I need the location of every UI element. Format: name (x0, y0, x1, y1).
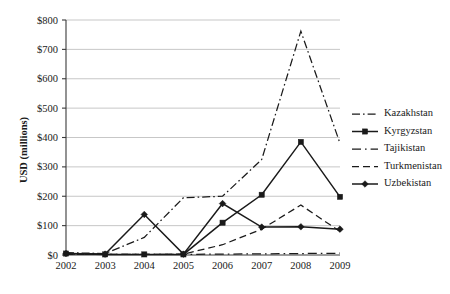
x-tick-label: 2005 (173, 260, 194, 271)
y-axis-tick-labels: $0$100$200$300$400$500$600$700$800 (37, 15, 58, 261)
chart-container: $0$100$200$300$400$500$600$700$800 20022… (0, 0, 450, 294)
legend-label: Kazakhstan (384, 107, 434, 118)
y-tick-label: $300 (37, 161, 58, 172)
x-tick-label: 2008 (290, 260, 311, 271)
legend-marker (362, 129, 367, 134)
data-point-marker (259, 192, 264, 197)
chart-background (0, 0, 450, 294)
legend-label: Tajikistan (384, 142, 426, 153)
x-tick-label: 2004 (134, 260, 156, 271)
y-tick-label: $400 (37, 132, 58, 143)
y-tick-label: $200 (37, 191, 58, 202)
x-tick-label: 2002 (56, 260, 77, 271)
x-tick-label: 2006 (212, 260, 233, 271)
y-tick-label: $600 (37, 73, 58, 84)
legend-label: Kyrgyzstan (384, 125, 433, 136)
y-tick-label: $500 (37, 103, 58, 114)
y-tick-label: $800 (37, 15, 58, 26)
y-tick-label: $0 (48, 250, 59, 261)
data-point-marker (298, 139, 303, 144)
x-tick-label: 2009 (330, 260, 351, 271)
data-point-marker (337, 194, 342, 199)
y-tick-label: $700 (37, 44, 58, 55)
x-tick-label: 2007 (251, 260, 272, 271)
data-point-marker (220, 220, 225, 225)
legend-label: Uzbekistan (384, 177, 432, 188)
x-tick-label: 2003 (95, 260, 116, 271)
y-tick-label: $100 (37, 220, 58, 231)
legend-label: Turkmenistan (384, 160, 443, 171)
line-chart: $0$100$200$300$400$500$600$700$800 20022… (0, 0, 450, 294)
y-axis-title: USD (millions) (18, 116, 30, 183)
